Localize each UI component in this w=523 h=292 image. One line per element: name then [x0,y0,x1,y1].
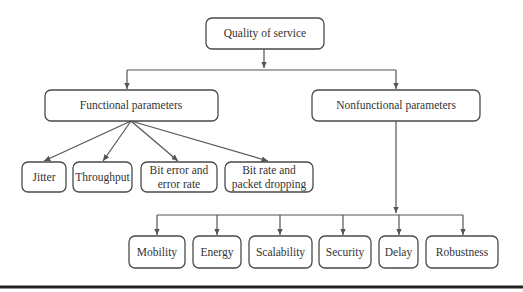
node-label: Robustness [436,246,489,258]
node-label: Security [326,246,365,259]
edge-functional-bit-rate [131,121,268,161]
node-mobility: Mobility [129,236,185,268]
node-functional-parameters: Functional parameters [45,90,218,121]
node-label: Mobility [137,246,178,259]
edges [44,49,463,235]
node-label-line-1: Bit error and [150,164,209,176]
node-security: Security [319,236,371,268]
node-label: Jitter [33,171,56,183]
node-label-line-2: error rate [158,178,200,190]
node-label-line-1: Bit rate and [242,164,296,176]
node-jitter: Jitter [22,162,66,192]
node-bit-rate-and-packet-dropping: Bit rate and packet dropping [225,162,313,192]
edge-functional-jitter [44,121,131,161]
node-label: Functional parameters [80,99,183,112]
node-delay: Delay [379,236,418,268]
node-scalability: Scalability [249,236,312,268]
node-nonfunctional-parameters: Nonfunctional parameters [312,90,480,121]
node-robustness: Robustness [426,236,498,268]
node-label: Delay [385,246,413,259]
node-bit-error-and-error-rate: Bit error and error rate [141,162,217,192]
node-label: Throughput [75,171,130,184]
node-label: Nonfunctional parameters [336,99,456,112]
node-label: Energy [200,246,233,259]
edge-functional-bit-error [131,121,178,161]
node-label: Scalability [256,246,305,259]
node-energy: Energy [193,236,241,268]
node-label-line-2: packet dropping [232,178,307,191]
node-quality-of-service: Quality of service [206,18,324,49]
node-throughput: Throughput [73,162,132,192]
node-label: Quality of service [224,27,306,40]
qos-diagram: Quality of service Functional parameters… [0,0,523,292]
